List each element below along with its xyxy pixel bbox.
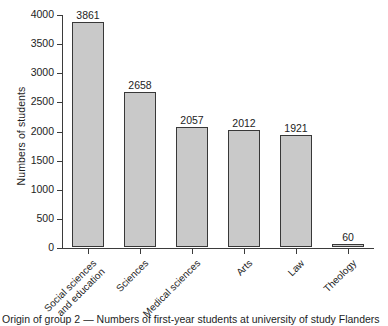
- bar-value-label: 2057: [180, 114, 203, 126]
- bar[interactable]: 1921: [280, 135, 312, 247]
- y-axis-title: Numbers of students: [15, 41, 27, 231]
- figure-caption: Origin of group 2 — Numbers of first-yea…: [2, 313, 386, 326]
- bar-value-label: 2658: [128, 79, 151, 91]
- y-tick: 1000: [57, 190, 62, 191]
- y-tick: 3500: [57, 44, 62, 45]
- y-tick-label: 0: [48, 241, 54, 253]
- y-tick-label: 3500: [31, 37, 54, 49]
- bar[interactable]: 2057: [176, 127, 208, 247]
- y-tick-label: 500: [36, 212, 54, 224]
- bar-value-label: 60: [342, 231, 354, 243]
- x-tick: [88, 249, 89, 254]
- y-tick: 4000: [57, 15, 62, 16]
- y-tick-label: 4000: [31, 8, 54, 20]
- y-tick-label: 1500: [31, 154, 54, 166]
- y-tick: 500: [57, 219, 62, 220]
- bar[interactable]: 3861: [72, 22, 104, 247]
- category-label-text: Theology: [321, 256, 360, 295]
- y-tick-label: 1000: [31, 183, 54, 195]
- category-label-text: Arts: [234, 256, 256, 278]
- y-tick-label: 2000: [31, 125, 54, 137]
- bar[interactable]: 60: [332, 244, 364, 247]
- y-tick: 2000: [57, 132, 62, 133]
- y-tick: 0: [57, 248, 62, 249]
- bar-value-label: 1921: [284, 122, 307, 134]
- y-tick-label: 3000: [31, 66, 54, 78]
- category-label-text: Sciences: [114, 256, 152, 294]
- x-tick: [140, 249, 141, 254]
- x-tick: [348, 249, 349, 254]
- plot-area: 05001000150020002500300035004000 3861265…: [62, 15, 374, 248]
- x-tick: [296, 249, 297, 254]
- y-tick: 2500: [57, 102, 62, 103]
- x-tick: [192, 249, 193, 254]
- y-tick: 3000: [57, 73, 62, 74]
- y-tick: 1500: [57, 161, 62, 162]
- x-tick: [244, 249, 245, 254]
- y-axis-line: [62, 15, 63, 249]
- category-label-text: Law: [286, 256, 309, 279]
- bar-value-label: 3861: [76, 9, 99, 21]
- y-tick-label: 2500: [31, 95, 54, 107]
- bar-value-label: 2012: [232, 117, 255, 129]
